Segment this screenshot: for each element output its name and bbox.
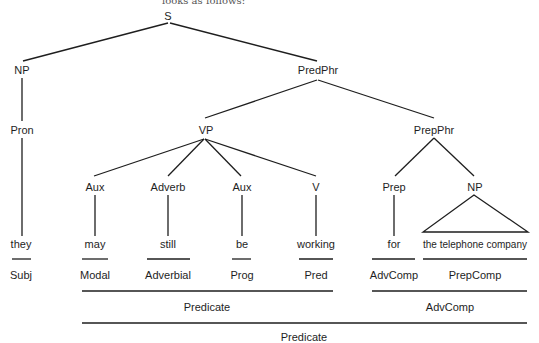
function-predicate-outer: Predicate [281,331,327,343]
node-v: V [312,181,320,193]
word-working: working [296,238,335,250]
function-modal: Modal [80,269,110,281]
np-collapsed-triangle [423,195,528,232]
function-subj: Subj [10,269,32,281]
node-pron: Pron [10,124,33,136]
node-s: S [164,10,171,22]
function-predicate-inner: Predicate [184,301,230,313]
node-vp: VP [199,124,214,136]
node-aux-modal: Aux [86,181,105,193]
branch-prepphr-np [434,138,474,176]
syntax-tree-diagram: looks as follows: S NP Pron PredPhr VP P… [0,0,539,343]
node-prep: Prep [382,181,405,193]
word-the-telephone-company: the telephone company [423,238,527,250]
function-adverbial: Adverbial [145,269,191,281]
node-np-object: NP [467,181,482,193]
branch-vp-v [205,139,316,176]
node-predphr: PredPhr [298,64,339,76]
branch-vp-aux [94,139,204,176]
word-still: still [160,238,176,250]
branch-predphr-prepphr [318,80,434,118]
function-pred: Pred [304,269,327,281]
branch-s-predphr [170,23,317,61]
node-prepphr: PrepPhr [414,124,455,136]
word-be: be [236,238,248,250]
function-advcomp-phrase: AdvComp [426,301,474,313]
word-may: may [85,238,106,250]
word-for: for [388,238,401,250]
word-they: they [11,238,32,250]
function-prog: Prog [230,269,253,281]
function-prepcomp: PrepComp [449,269,502,281]
node-adverb: Adverb [151,181,186,193]
node-np-subject: NP [14,64,29,76]
caption-fragment: looks as follows: [162,0,245,6]
branch-predphr-vp [205,80,317,118]
function-advcomp: AdvComp [370,269,418,281]
branch-s-np [23,23,168,61]
branch-prepphr-prep [395,138,434,176]
node-aux-prog: Aux [233,181,252,193]
